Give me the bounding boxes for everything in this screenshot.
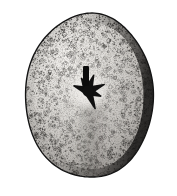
median-shadow <box>76 104 108 178</box>
apical-disc-core <box>82 85 93 96</box>
echinoid-test-figure <box>0 0 177 196</box>
illustration-plate <box>0 0 177 196</box>
